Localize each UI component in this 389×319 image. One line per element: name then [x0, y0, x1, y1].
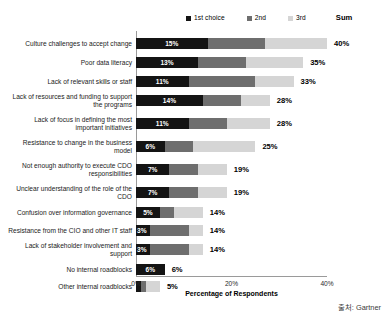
- x-axis-title: Percentage of Respondents: [136, 290, 327, 297]
- stacked-bar[interactable]: 11%: [136, 76, 294, 87]
- bar-sum-label: 33%: [301, 76, 316, 87]
- segment-value-label: 3%: [136, 225, 150, 236]
- bar-segment-2nd[interactable]: [203, 95, 241, 106]
- legend-item-1st-choice[interactable]: 1st choice: [186, 15, 225, 22]
- bar-sum-label: 14%: [210, 207, 225, 218]
- stacked-bar[interactable]: 5%: [136, 207, 203, 218]
- bar-segment-2nd[interactable]: [160, 207, 174, 218]
- category-label: Poor data literacy: [8, 59, 136, 67]
- bar-sum-label: 19%: [234, 164, 249, 175]
- category-label: Lack of resources and funding to support…: [8, 93, 136, 108]
- legend-item-3rd[interactable]: 3rd: [288, 15, 306, 22]
- stacked-bar[interactable]: 3%: [136, 244, 203, 255]
- segment-value-label: 3%: [136, 244, 150, 255]
- stacked-bar[interactable]: 15%: [136, 38, 327, 49]
- bar-segment-1st-choice[interactable]: 13%: [136, 57, 198, 68]
- bar-segment-2nd[interactable]: [150, 225, 188, 236]
- category-label: Lack of relevant skills or staff: [8, 78, 136, 86]
- bar-segment-1st-choice[interactable]: 7%: [136, 164, 169, 175]
- chart-legend: 1st choice 2nd 3rd Sum: [186, 12, 352, 24]
- bar-segment-2nd[interactable]: [189, 118, 227, 129]
- x-axis-line: [136, 276, 327, 277]
- segment-value-label: 11%: [136, 76, 189, 87]
- bar-segment-1st-choice[interactable]: 14%: [136, 95, 203, 106]
- stacked-bar[interactable]: 6%: [136, 264, 165, 275]
- category-label: Other internal roadblocks: [8, 283, 136, 291]
- segment-value-label: 6%: [136, 264, 165, 275]
- category-label: Not enough authority to execute CDO resp…: [8, 162, 136, 177]
- bar-segment-3rd[interactable]: [189, 244, 203, 255]
- stacked-bar[interactable]: 7%: [136, 164, 227, 175]
- bar-segment-3rd[interactable]: [198, 187, 227, 198]
- segment-value-label: 14%: [136, 95, 203, 106]
- segment-value-label: 7%: [136, 164, 169, 175]
- bar-segment-3rd[interactable]: [255, 76, 293, 87]
- segment-value-label: 11%: [136, 118, 189, 129]
- category-label: Resistance to change in the business mod…: [8, 139, 136, 154]
- square-swatch-icon: [247, 16, 252, 21]
- stacked-bar[interactable]: 13%: [136, 57, 303, 68]
- bar-segment-3rd[interactable]: [265, 38, 327, 49]
- segment-value-label: 15%: [136, 38, 208, 49]
- bar-segment-1st-choice[interactable]: 15%: [136, 38, 208, 49]
- stacked-bar[interactable]: 6%: [136, 141, 255, 152]
- legend-item-label: 1st choice: [194, 15, 225, 22]
- legend-sum-header: Sum: [336, 14, 352, 22]
- segment-value-label: 13%: [136, 57, 198, 68]
- bar-segment-1st-choice[interactable]: 3%: [136, 244, 150, 255]
- category-label: Lack of stakeholder involvement and supp…: [8, 242, 136, 257]
- segment-value-label: 5%: [136, 207, 160, 218]
- bar-segment-3rd[interactable]: [193, 141, 255, 152]
- bar-segment-2nd[interactable]: [198, 57, 246, 68]
- stacked-bar[interactable]: 14%: [136, 95, 270, 106]
- square-swatch-icon: [186, 16, 191, 21]
- stacked-bar[interactable]: 7%: [136, 187, 227, 198]
- legend-item-2nd[interactable]: 2nd: [247, 15, 266, 22]
- bar-segment-1st-choice[interactable]: 11%: [136, 118, 189, 129]
- legend-item-label: 3rd: [296, 15, 306, 22]
- bar-segment-1st-choice[interactable]: 6%: [136, 264, 165, 275]
- square-swatch-icon: [288, 16, 293, 21]
- bar-segment-1st-choice[interactable]: 11%: [136, 76, 189, 87]
- bar-segment-2nd[interactable]: [165, 141, 194, 152]
- category-label: Lack of focus in defining the most impor…: [8, 116, 136, 131]
- bar-sum-label: 35%: [310, 57, 325, 68]
- bar-sum-label: 6%: [172, 264, 183, 275]
- category-label: Unclear understanding of the role of the…: [8, 185, 136, 200]
- x-axis-tick-label: 20%: [225, 280, 238, 287]
- stacked-bar[interactable]: 11%: [136, 118, 270, 129]
- bar-segment-1st-choice[interactable]: 6%: [136, 141, 165, 152]
- bar-sum-label: 14%: [210, 244, 225, 255]
- bar-segment-2nd[interactable]: [189, 76, 256, 87]
- stacked-bar[interactable]: 3%: [136, 225, 203, 236]
- bar-segment-3rd[interactable]: [241, 95, 270, 106]
- bar-segment-3rd[interactable]: [246, 57, 303, 68]
- bar-segment-3rd[interactable]: [198, 164, 227, 175]
- bar-segment-2nd[interactable]: [169, 164, 198, 175]
- bar-segment-1st-choice[interactable]: 7%: [136, 187, 169, 198]
- bar-segment-1st-choice[interactable]: 3%: [136, 225, 150, 236]
- bar-sum-label: 14%: [210, 225, 225, 236]
- bar-segment-1st-choice[interactable]: 5%: [136, 207, 160, 218]
- category-label: Culture challenges to accept change: [8, 40, 136, 48]
- category-label: No internal roadblocks: [8, 266, 136, 274]
- bar-segment-2nd[interactable]: [150, 244, 188, 255]
- category-labels: Culture challenges to accept changePoor …: [0, 31, 136, 276]
- bar-sum-label: 19%: [234, 187, 249, 198]
- bar-segment-3rd[interactable]: [189, 225, 203, 236]
- plot-area: 15%40%13%35%11%33%14%28%11%28%6%25%7%19%…: [136, 31, 327, 276]
- bar-segment-2nd[interactable]: [208, 38, 265, 49]
- x-axis-tick-label: 40%: [320, 280, 333, 287]
- gartner-stacked-bar-chart: 1st choice 2nd 3rd Sum Culture challenge…: [0, 0, 389, 319]
- bar-segment-2nd[interactable]: [169, 187, 198, 198]
- x-axis-tick-label: 0%: [131, 280, 141, 287]
- bar-sum-label: 28%: [277, 95, 292, 106]
- bar-sum-label: 28%: [277, 118, 292, 129]
- segment-value-label: 6%: [136, 141, 165, 152]
- bar-sum-label: 40%: [334, 38, 349, 49]
- category-label: Confusion over information governance: [8, 209, 136, 217]
- bar-segment-3rd[interactable]: [227, 118, 270, 129]
- bar-segment-3rd[interactable]: [174, 207, 203, 218]
- bar-sum-label: 25%: [262, 141, 277, 152]
- segment-value-label: 7%: [136, 187, 169, 198]
